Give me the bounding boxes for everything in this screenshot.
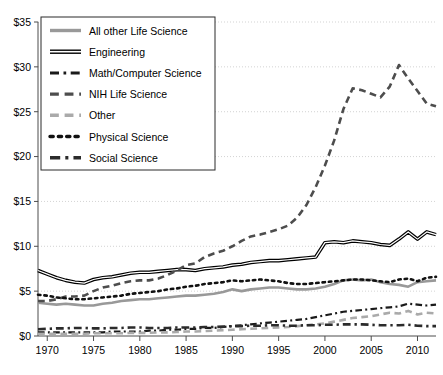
y-axis-tick-label: $25 [13,106,31,118]
x-axis-tick-label: 2005 [360,344,384,356]
x-axis-tick-label: 2010 [406,344,430,356]
series-line-other [38,311,436,334]
x-axis-tick-label: 1980 [128,344,152,356]
y-axis-tick-label: $35 [13,16,31,28]
legend-item-label: Engineering [89,46,145,58]
legend-item-label: All other Life Science [89,25,188,37]
y-axis-tick-label: $0 [19,330,31,342]
line-chart: $0$5$10$15$20$25$30$35 19701975198019851… [0,0,443,375]
series-line-social-science [38,324,436,329]
series-line-engineering-outline [38,232,436,283]
x-axis-tick-label: 1985 [174,344,198,356]
chart-container: $0$5$10$15$20$25$30$35 19701975198019851… [0,0,443,375]
series-line-engineering-inner [38,232,436,283]
chart-legend: All other Life ScienceEngineeringMath/Co… [41,17,215,170]
y-axis-tick-label: $5 [19,285,31,297]
x-axis: 197019751980198519901995200020052010 [36,336,436,356]
legend-item-label: Math/Computer Science [89,67,202,79]
y-axis: $0$5$10$15$20$25$30$35 [13,16,38,342]
series-line-all-other-life-science [38,279,436,305]
x-axis-tick-label: 1970 [36,344,60,356]
legend-item-label: Other [89,109,116,121]
y-axis-tick-label: $10 [13,240,31,252]
x-axis-tick-label: 1990 [221,344,245,356]
legend-item-label: NIH Life Science [89,88,167,100]
y-axis-tick-label: $20 [13,150,31,162]
x-axis-tick-label: 2000 [313,344,337,356]
legend-item-label: Physical Science [89,131,169,143]
y-axis-tick-label: $30 [13,61,31,73]
legend-item-label: Social Science [89,152,158,164]
x-axis-tick-label: 1995 [267,344,291,356]
x-axis-tick-label: 1975 [82,344,106,356]
y-axis-tick-label: $15 [13,195,31,207]
